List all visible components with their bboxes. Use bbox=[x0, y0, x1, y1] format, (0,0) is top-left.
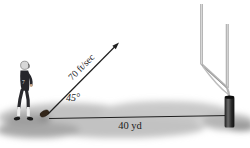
goal-post-crossbar bbox=[202, 64, 228, 88]
jersey-number: 7 bbox=[22, 79, 25, 85]
player-hand bbox=[30, 84, 33, 87]
player-helmet-icon bbox=[21, 61, 29, 69]
player-back-leg bbox=[19, 91, 22, 109]
goal-post-base bbox=[225, 97, 235, 128]
kickoff-diagram: 7 70 ft/sec 45° 40 yd bbox=[0, 0, 250, 148]
goal-post-near-upright bbox=[226, 24, 229, 88]
goal-post-gooseneck bbox=[227, 88, 229, 98]
goal-post-crossbar-edge bbox=[202, 65, 228, 89]
angle-label: 45° bbox=[66, 93, 80, 103]
player-front-leg bbox=[27, 91, 29, 109]
goal-post-base-cap bbox=[225, 96, 235, 99]
goal-post-support-curve bbox=[203, 66, 229, 95]
distance-label: 40 yd bbox=[110, 121, 150, 132]
goal-post-far-upright bbox=[200, 4, 203, 65]
